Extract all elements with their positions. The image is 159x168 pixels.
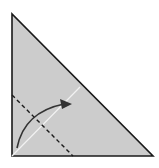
origami-diagram: [0, 0, 159, 168]
fold-step-illustration: [0, 0, 159, 168]
